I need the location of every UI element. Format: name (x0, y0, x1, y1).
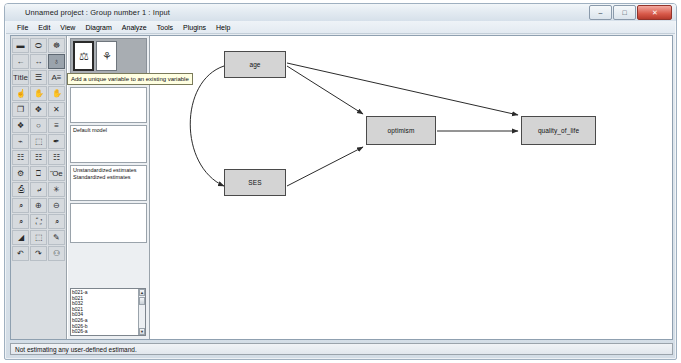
menu-item-edit[interactable]: Edit (33, 22, 55, 33)
touch-up-variable-icon[interactable]: ⬚ (30, 134, 47, 149)
node-quality-of-life[interactable]: quality_of_life (521, 116, 596, 145)
menu-item-help[interactable]: Help (211, 22, 235, 33)
menu-item-view[interactable]: View (55, 22, 80, 33)
save-current-diagram-icon[interactable]: Ὃe (48, 166, 65, 181)
drag-properties-icon[interactable]: ⤶ (30, 182, 47, 197)
browse-path-diagrams-icon[interactable]: ⚇ (48, 246, 65, 261)
edge-age-ses-covariance[interactable] (190, 66, 224, 186)
rotate-indicators-icon[interactable]: ○ (30, 118, 47, 133)
edge-ses-to-optimism[interactable] (287, 147, 363, 186)
window-title: Unnamed project : Group number 1 : Input (25, 7, 170, 18)
window-controls: – □ ✕ (589, 5, 672, 19)
zoom-out-icon[interactable]: ⊖ (48, 198, 65, 213)
estimates-list[interactable]: Unstandardized estimates Standardized es… (70, 165, 147, 201)
draw-covariance-double-headed-icon[interactable]: ↔ (30, 54, 47, 69)
node-optimism[interactable]: optimism (366, 116, 436, 145)
calculate-estimates-icon[interactable]: ⚙ (12, 166, 29, 181)
print-diagram-icon[interactable]: ⎙ (12, 182, 29, 197)
zoom-in-region-icon[interactable]: ⌕ (12, 198, 29, 213)
undo-icon[interactable]: ↶ (12, 246, 29, 261)
change-shape-of-objects-icon[interactable]: ❖ (12, 118, 29, 133)
multiple-group-analysis-icon[interactable]: ⬚ (30, 230, 47, 245)
node-ses[interactable]: SES (224, 169, 286, 196)
erase-objects-icon[interactable]: ✕ (48, 102, 65, 117)
move-objects-icon[interactable]: ✥ (30, 102, 47, 117)
close-button[interactable]: ✕ (637, 5, 672, 20)
tool-palette: ▬⬭☸←↔♁Title☰A≡☝✋✋❐✥✕❖○≡⌁⬚✒☷☷☷⚙⎕Ὃe⎙⤶✳⌕⊕⊖⌕… (11, 36, 67, 339)
object-properties-icon[interactable]: ☷ (30, 150, 47, 165)
duplicate-objects-icon[interactable]: ❐ (12, 102, 29, 117)
menu-item-analyze[interactable]: Analyze (117, 22, 152, 33)
figure-caption-icon[interactable]: Title (12, 70, 29, 85)
select-data-file-icon[interactable]: ✒ (48, 134, 65, 149)
title-bar: ⑖ Unnamed project : Group number 1 : Inp… (5, 4, 676, 21)
maximize-button[interactable]: □ (613, 5, 636, 20)
path-diagram-canvas[interactable]: age SES optimism quality_of_life (151, 36, 672, 339)
status-message: Not estimating any user-defined estimand… (15, 346, 137, 353)
reflect-indicators-icon[interactable]: ≡ (48, 118, 65, 133)
draw-latent-with-indicators-icon[interactable]: ☸ (48, 38, 65, 53)
scroll-down-arrow-icon[interactable]: ▼ (139, 328, 145, 335)
status-bar: Not estimating any user-defined estimand… (10, 343, 673, 355)
move-parameter-values-icon[interactable]: ⌁ (12, 134, 29, 149)
estimates-item-standardized[interactable]: Standardized estimates (73, 174, 144, 181)
panel-blank-lower (70, 203, 147, 243)
redo-icon[interactable]: ↷ (30, 246, 47, 261)
draw-observed-variable-icon[interactable]: ▬ (12, 38, 29, 53)
list-variables-in-model-icon[interactable]: ☰ (30, 70, 47, 85)
loupe-magnify-icon[interactable]: ⌕ (48, 214, 65, 229)
model-thumbnail-strip: ⚖ ⚘ (70, 38, 147, 74)
add-unique-variable-icon[interactable]: ♁ (48, 54, 65, 69)
deselect-all-objects-icon[interactable]: ✋ (48, 86, 65, 101)
select-all-objects-icon[interactable]: ✋ (30, 86, 47, 101)
text-output-icon[interactable]: ☷ (48, 150, 65, 165)
zoom-in-icon[interactable]: ⊕ (30, 198, 47, 213)
draw-unobserved-variable-icon[interactable]: ⬭ (30, 38, 47, 53)
copy-to-clipboard-icon[interactable]: ⎕ (30, 166, 47, 181)
scrollbar-thumb[interactable] (139, 297, 145, 305)
bayesian-estimation-icon[interactable]: ◢ (12, 230, 29, 245)
model-thumbnail-input[interactable]: ⚖ (73, 41, 94, 71)
draw-path-single-headed-icon[interactable]: ← (12, 54, 29, 69)
model-list[interactable]: Default model (70, 125, 147, 163)
minimize-button[interactable]: – (589, 5, 612, 20)
menu-item-plugins[interactable]: Plugins (178, 22, 211, 33)
amos-icon: ⑖ (11, 7, 22, 18)
estimates-item-unstandardized[interactable]: Unstandardized estimates (73, 167, 144, 174)
estimand-list-scrollbar[interactable]: ▲ ▼ (138, 289, 145, 335)
panel-blank-upper (70, 87, 147, 123)
estimand-list-items: b021-ab021b032b021b034b026-ab026-bb026-a… (72, 290, 137, 336)
fit-to-page-icon[interactable]: ⛶ (30, 214, 47, 229)
edge-age-to-optimism[interactable] (287, 66, 363, 114)
tooltip: Add a unique variable to an existing var… (67, 73, 193, 85)
menu-bar: File Edit View Diagram Analyze Tools Plu… (6, 21, 675, 34)
scroll-up-arrow-icon[interactable]: ▲ (139, 289, 145, 296)
node-age[interactable]: age (224, 51, 286, 78)
application-window: ⑖ Unnamed project : Group number 1 : Inp… (4, 3, 677, 360)
menu-item-file[interactable]: File (12, 22, 33, 33)
print-preview-icon[interactable]: ✎ (48, 230, 65, 245)
tool-palette-grid: ▬⬭☸←↔♁Title☰A≡☝✋✋❐✥✕❖○≡⌁⬚✒☷☷☷⚙⎕Ὃe⎙⤶✳⌕⊕⊖⌕… (12, 38, 65, 261)
analysis-properties-icon[interactable]: ☷ (12, 150, 29, 165)
menu-item-tools[interactable]: Tools (152, 22, 178, 33)
select-one-object-icon[interactable]: ☝ (12, 86, 29, 101)
estimand-list-item[interactable]: b026-ab (72, 335, 137, 336)
edge-age-to-quality-of-life[interactable] (287, 63, 518, 115)
list-variables-in-dataset-icon[interactable]: A≡ (48, 70, 65, 85)
model-item-default[interactable]: Default model (73, 127, 144, 134)
preserve-symmetries-icon[interactable]: ✳ (48, 182, 65, 197)
menu-item-diagram[interactable]: Diagram (80, 22, 116, 33)
model-thumbnail-output[interactable]: ⚘ (96, 41, 117, 71)
estimand-list[interactable]: b021-ab021b032b021b034b026-ab026-bb026-a… (70, 288, 146, 336)
zoom-page-icon[interactable]: ⌕ (12, 214, 29, 229)
